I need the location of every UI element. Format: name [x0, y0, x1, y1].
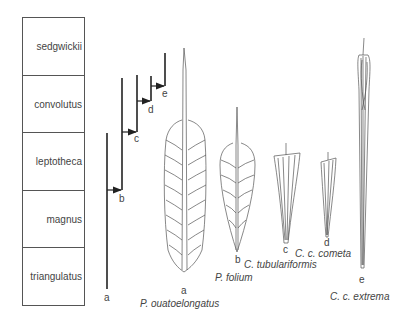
lineage-label-d: d: [148, 105, 154, 115]
lineage-label-a: a: [104, 293, 110, 303]
specimen-name-b: P. folium: [215, 273, 253, 283]
specimen-name-e: C. c. extrema: [330, 292, 389, 302]
lineage-and-specimen-drawings: [0, 0, 416, 324]
specimen-name-c: C. tubulariformis: [244, 260, 317, 270]
specimen-label-e: e: [359, 275, 365, 285]
specimen-b-drawing: [220, 107, 255, 252]
graptolite-phylogeny-diagram: sedgwickii convolutus leptotheca magnus …: [0, 0, 416, 324]
specimen-name-a: P. ouatoelongatus: [140, 299, 219, 309]
lineage-label-c: c: [134, 134, 139, 144]
specimen-a-drawing: [164, 48, 206, 272]
lineage-label-e: e: [162, 89, 168, 99]
specimen-c-drawing: [274, 143, 300, 243]
specimen-label-d: d: [324, 238, 330, 248]
range-lines: [107, 53, 165, 289]
specimen-label-c: c: [283, 245, 288, 255]
specimen-e-drawing: [358, 38, 370, 268]
specimen-d-drawing: [321, 152, 336, 237]
specimen-label-a: a: [181, 286, 187, 296]
specimen-label-b: b: [235, 255, 241, 265]
lineage-label-b: b: [119, 194, 125, 204]
specimen-name-d: C. c. cometa: [295, 249, 351, 259]
